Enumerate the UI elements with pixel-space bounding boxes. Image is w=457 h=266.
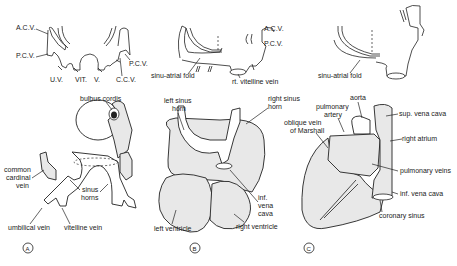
left-horn-outline [47, 27, 130, 70]
panel-c-letter: C [307, 246, 312, 252]
middle-left-horn [178, 26, 222, 58]
label-vein: vein [16, 182, 29, 189]
label-ccv: C.C.V. [116, 76, 136, 83]
label-pulmonary: pulmonary [316, 103, 349, 111]
leader-pcv-left [36, 54, 48, 57]
label-artery: artery [324, 111, 342, 119]
leader-vitelline [62, 208, 70, 224]
label-coronary-sinus: coronary sinus [379, 212, 425, 220]
leader-sinus-horns-right [100, 184, 108, 192]
label-right-atrium: right atrium [402, 135, 437, 143]
panel-b-left-ventricle [159, 174, 213, 232]
right-ivc-opening [387, 73, 405, 79]
panel-a-right-cardinal [120, 152, 132, 180]
leader-pcv-right [125, 54, 130, 60]
label-pcv-left: P.C.V. [16, 52, 35, 59]
label-cardinal: cardinal [6, 174, 31, 181]
label-sinus: sinus [82, 186, 99, 193]
left-acv-vessel [58, 26, 70, 48]
top-left-schematic [47, 26, 130, 72]
label-inf: inf. [258, 194, 267, 201]
label-right-ventricle: right ventricle [236, 223, 278, 231]
label-right-horn: horn [268, 103, 282, 110]
panel-c-ivc-opening [373, 194, 393, 200]
middle-fold-lines [186, 28, 222, 52]
label-umbilical-vein: umbilical vein [8, 224, 50, 231]
panel-b-letter: B [193, 246, 197, 252]
top-right-schematic [334, 5, 424, 79]
label-sinu-atrial-fold-right: sinu-atrial fold [318, 72, 362, 79]
right-acv-vessel [104, 26, 116, 46]
label-cava: cava [258, 210, 273, 217]
label-pcv-right: P.C.V. [129, 60, 148, 67]
label-uv: U.V. [50, 76, 63, 83]
label-pcv-middle: P.C.V. [264, 40, 283, 47]
label-left-sinus: left sinus [164, 97, 192, 104]
right-acv-vessel [400, 10, 406, 22]
right-fold-curves [334, 26, 380, 58]
label-vit: VIT. [75, 76, 87, 83]
panel-a-bulbus-lumen [111, 112, 117, 119]
label-vena: vena [258, 202, 273, 209]
label-horns: horns [81, 194, 99, 201]
uv-tick [58, 60, 120, 72]
label-rt-vitelline-vein: rt. vitelline vein [232, 78, 278, 85]
leader-acv-left [36, 29, 48, 34]
label-v: V. [94, 76, 100, 83]
panel-c-aorta [352, 116, 370, 134]
leader-right-sinus-horn [246, 108, 268, 124]
leader-inf-vena-cava-c [392, 192, 398, 194]
label-right-sinus: right sinus [268, 95, 300, 103]
label-bulbus-cordis: bulbus cordis [80, 95, 122, 102]
label-inf-vena-cava-c: inf. vena cava [400, 190, 443, 197]
label-left-ventricle: left ventricle [154, 225, 191, 232]
label-oblique-vein: oblique vein [284, 119, 321, 127]
label-vitelline-vein: vitelline vein [64, 224, 102, 231]
label-pulmonary-veins: pulmonary veins [400, 167, 451, 175]
panel-b-ivc-opening [216, 163, 232, 169]
embryonic-heart-diagram: A.C.V. P.C.V. P.C.V. U.V. VIT. V. C.C.V.… [0, 0, 457, 266]
leader-common-cardinal [32, 170, 44, 178]
right-atrium-outline [376, 5, 424, 76]
label-common: common [4, 166, 31, 173]
label-acv-middle: A.C.V. [264, 25, 284, 32]
label-sinu-atrial-fold-middle: sinu-atrial fold [151, 72, 195, 79]
panel-a-left-cardinal [40, 152, 56, 180]
middle-right-acv [246, 34, 252, 44]
label-acv-left: A.C.V. [16, 24, 36, 31]
label-aorta: aorta [350, 94, 366, 101]
panel-a-letter: A [26, 246, 30, 252]
label-of-marshall: of Marshall [290, 127, 325, 134]
leader-umbilical [30, 208, 42, 224]
label-left-horn: horn [172, 105, 186, 112]
leader-pulmonary-artery [338, 118, 344, 132]
label-sup-vena-cava: sup. vena cava [399, 110, 446, 118]
leader-ccv [120, 58, 122, 76]
middle-floor [182, 27, 274, 72]
